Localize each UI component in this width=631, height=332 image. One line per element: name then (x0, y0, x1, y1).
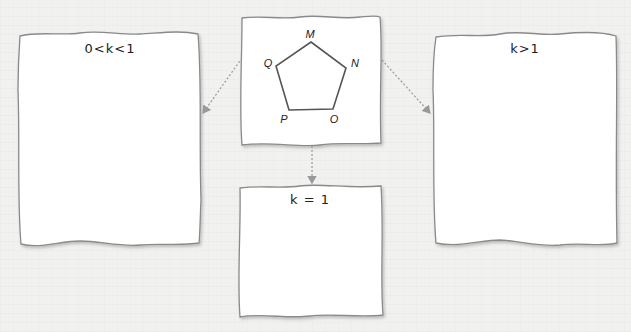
vertex-label-n: N (351, 57, 359, 69)
left-box (18, 32, 201, 246)
vertex-label-q: Q (264, 57, 273, 69)
right-box-label: k>1 (510, 41, 540, 56)
left-box-label: 0<k<1 (85, 41, 136, 56)
vertex-label-p: P (280, 113, 287, 125)
bottom-box-label: k = 1 (290, 192, 330, 207)
right-box (433, 32, 617, 245)
vertex-label-m: M (305, 28, 314, 40)
arrow-to-left-box (203, 58, 242, 113)
arrow-to-right-box (382, 60, 430, 113)
vertex-label-o: O (330, 113, 339, 125)
